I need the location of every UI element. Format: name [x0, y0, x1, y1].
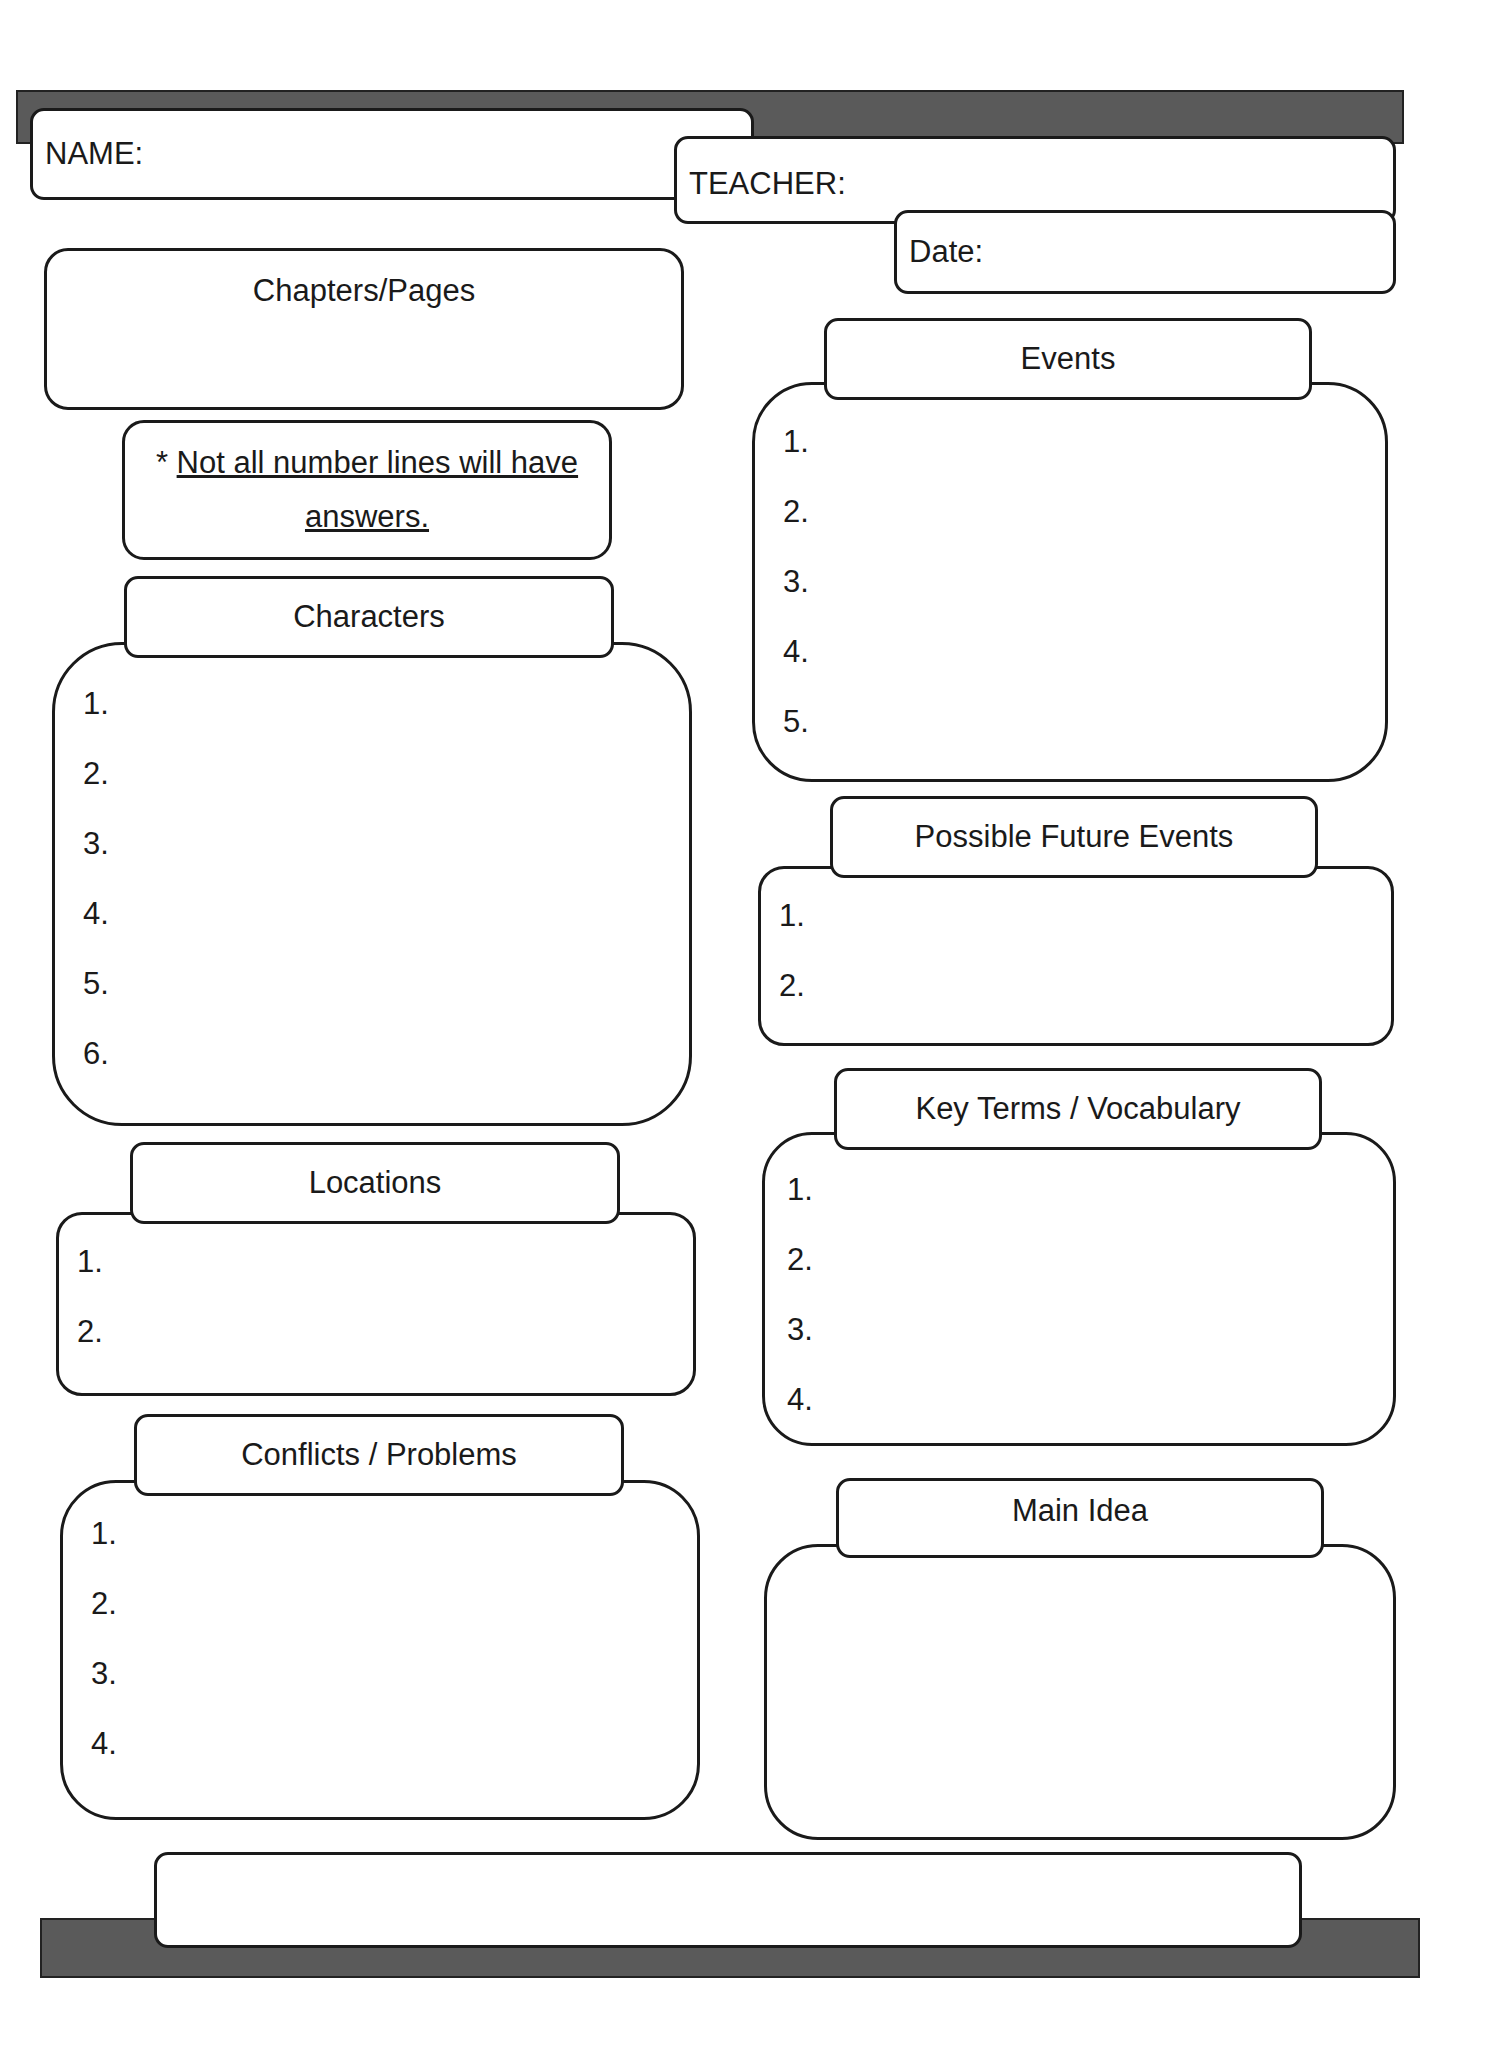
characters-box[interactable]: 1. 2. 3. 4. 5. 6. — [52, 642, 692, 1126]
date-field[interactable]: Date: — [894, 210, 1396, 294]
list-item: 3. — [63, 1655, 697, 1725]
list-item: 4. — [63, 1725, 697, 1795]
list-item: 1. — [765, 1171, 1393, 1241]
teacher-label: TEACHER: — [689, 166, 846, 202]
name-label: NAME: — [45, 136, 143, 172]
note-line-1: * Not all number lines will have — [156, 436, 578, 490]
note-line-2: answers. — [305, 490, 429, 544]
list-item: 1. — [761, 897, 1391, 967]
conflicts-title: Conflicts / Problems — [134, 1414, 624, 1496]
list-item: 2. — [63, 1585, 697, 1655]
vocabulary-box[interactable]: 1. 2. 3. 4. — [762, 1132, 1396, 1446]
name-field[interactable]: NAME: — [30, 108, 754, 200]
conflicts-box[interactable]: 1. 2. 3. 4. — [60, 1480, 700, 1820]
list-item: 1. — [55, 685, 689, 755]
list-item: 2. — [59, 1313, 693, 1383]
chapters-pages-box[interactable]: Chapters/Pages — [44, 248, 684, 410]
list-item: 1. — [63, 1515, 697, 1585]
list-item: 2. — [55, 755, 689, 825]
future-events-box[interactable]: 1. 2. — [758, 866, 1394, 1046]
bottom-blank-box[interactable] — [154, 1852, 1302, 1948]
date-label: Date: — [909, 234, 983, 270]
locations-title: Locations — [130, 1142, 620, 1224]
main-idea-title: Main Idea — [836, 1478, 1324, 1558]
list-item: 2. — [755, 493, 1385, 563]
note-box: * Not all number lines will have answers… — [122, 420, 612, 560]
characters-title: Characters — [124, 576, 614, 658]
list-item: 5. — [755, 703, 1385, 773]
list-item: 1. — [59, 1243, 693, 1313]
list-item: 3. — [765, 1311, 1393, 1381]
list-item: 3. — [755, 563, 1385, 633]
chapters-pages-label: Chapters/Pages — [47, 251, 681, 331]
list-item: 5. — [55, 965, 689, 1035]
future-events-title: Possible Future Events — [830, 796, 1318, 878]
list-item: 6. — [55, 1035, 689, 1105]
list-item: 4. — [755, 633, 1385, 703]
list-item: 2. — [761, 967, 1391, 1037]
locations-box[interactable]: 1. 2. — [56, 1212, 696, 1396]
events-title: Events — [824, 318, 1312, 400]
list-item: 3. — [55, 825, 689, 895]
list-item: 1. — [755, 423, 1385, 493]
list-item: 4. — [55, 895, 689, 965]
main-idea-box[interactable] — [764, 1544, 1396, 1840]
vocabulary-title: Key Terms / Vocabulary — [834, 1068, 1322, 1150]
events-box[interactable]: 1. 2. 3. 4. 5. — [752, 382, 1388, 782]
list-item: 2. — [765, 1241, 1393, 1311]
list-item: 4. — [765, 1381, 1393, 1451]
